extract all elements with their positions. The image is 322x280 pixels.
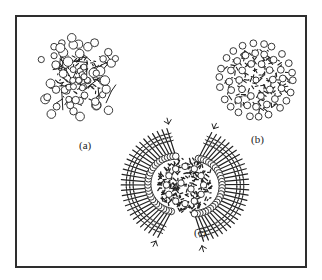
molecular-clusters-illustration <box>0 0 322 280</box>
panel-label-c: (c) <box>194 227 206 238</box>
panel-label-a: (a) <box>79 140 91 151</box>
cluster-c-pinwheel-aggregate <box>121 118 249 252</box>
cluster-b-compact-sphere <box>216 40 296 120</box>
panel-label-b: (b) <box>251 134 264 145</box>
cluster-a-loose-network <box>38 34 118 121</box>
